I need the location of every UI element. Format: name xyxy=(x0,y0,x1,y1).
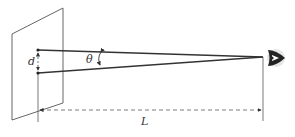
ray-bottom xyxy=(38,57,263,73)
separation-label: d xyxy=(28,55,35,68)
diagram-canvas: d θ L xyxy=(0,0,295,137)
angle-arc xyxy=(99,52,101,65)
screen-plane xyxy=(12,8,63,120)
distance-label: L xyxy=(140,115,148,128)
eye-icon xyxy=(267,49,285,67)
point-bottom xyxy=(36,71,39,74)
point-top xyxy=(36,48,39,51)
angle-label: θ xyxy=(86,53,93,66)
ray-top xyxy=(38,50,263,57)
